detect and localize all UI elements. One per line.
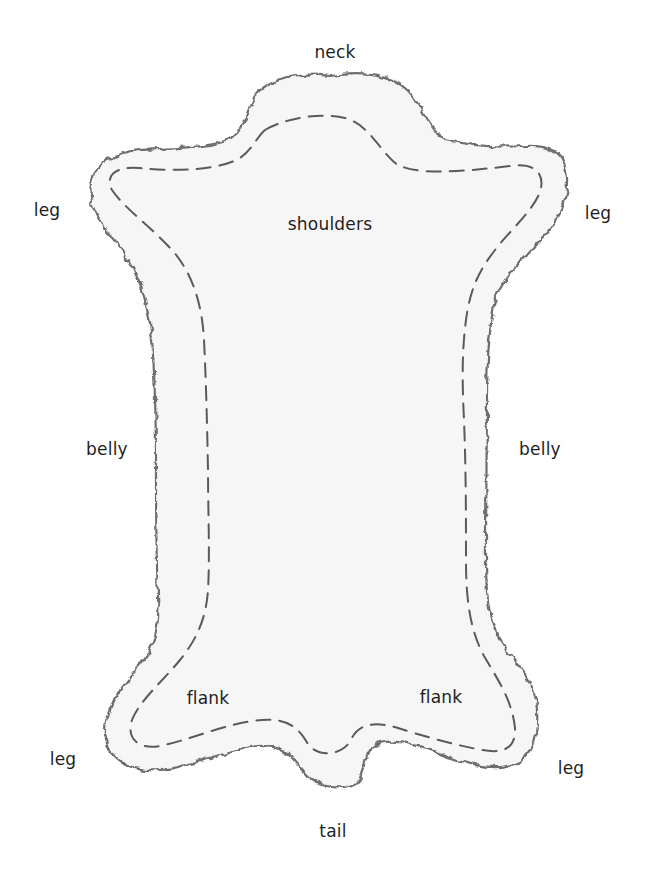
- label-leg-top-left: leg: [34, 200, 61, 220]
- label-leg-top-right: leg: [585, 203, 612, 223]
- label-shoulders: shoulders: [288, 214, 372, 234]
- label-belly-left: belly: [86, 439, 128, 459]
- label-neck: neck: [314, 42, 355, 62]
- label-leg-bottom-right: leg: [558, 758, 585, 778]
- label-flank-right: flank: [420, 687, 463, 707]
- label-flank-left: flank: [187, 688, 230, 708]
- label-belly-right: belly: [519, 439, 561, 459]
- label-tail: tail: [319, 821, 346, 841]
- label-leg-bottom-left: leg: [50, 749, 77, 769]
